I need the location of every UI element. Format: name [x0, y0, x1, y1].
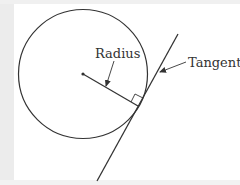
- tangent-label-arrow: [160, 62, 186, 72]
- geometry-figure: Radius Tangent: [0, 0, 240, 185]
- radius-segment: [83, 74, 138, 106]
- radius-label-arrow: [106, 61, 114, 86]
- radius-label: Radius: [95, 46, 140, 61]
- diagram-canvas: Radius Tangent: [0, 0, 240, 185]
- tangent-label: Tangent: [188, 55, 240, 70]
